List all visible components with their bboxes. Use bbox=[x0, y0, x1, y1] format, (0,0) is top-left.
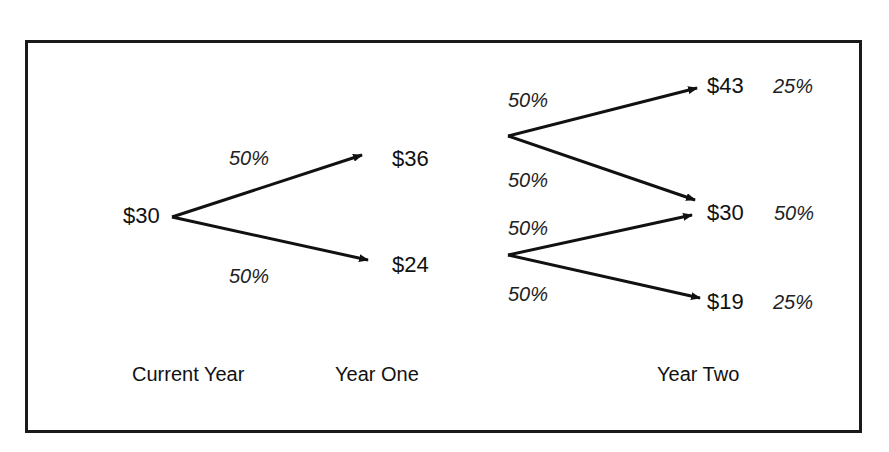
period-label-current: Current Year bbox=[132, 363, 244, 386]
node-current-value: $30 bbox=[123, 203, 160, 229]
node-year-two-mid: $30 bbox=[707, 200, 744, 226]
prob-y1high-up: 50% bbox=[508, 89, 548, 112]
node-year-one-low: $24 bbox=[392, 252, 429, 278]
period-label-year-one: Year One bbox=[335, 363, 419, 386]
prob-current-down: 50% bbox=[229, 265, 269, 288]
prob-y1low-up: 50% bbox=[508, 217, 548, 240]
period-label-year-two: Year Two bbox=[657, 363, 739, 386]
node-year-one-high: $36 bbox=[392, 146, 429, 172]
prob-year-two-low: 25% bbox=[773, 291, 813, 314]
arrow-current-down bbox=[172, 217, 368, 260]
prob-y1high-down: 50% bbox=[508, 169, 548, 192]
node-year-two-low: $19 bbox=[707, 289, 744, 315]
prob-year-two-mid: 50% bbox=[774, 202, 814, 225]
node-year-two-high: $43 bbox=[707, 73, 744, 99]
prob-current-up: 50% bbox=[229, 147, 269, 170]
prob-year-two-high: 25% bbox=[773, 75, 813, 98]
prob-y1low-down: 50% bbox=[508, 283, 548, 306]
